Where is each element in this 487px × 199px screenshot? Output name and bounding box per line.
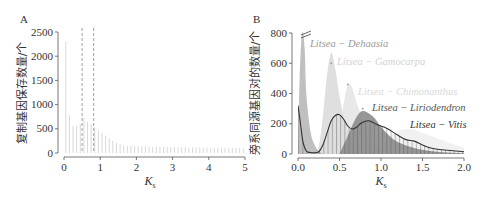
x-tick-label: 1 xyxy=(97,161,103,173)
panel-a-bars xyxy=(66,42,243,153)
annotation-liriodendron: Litsea − Liriodendron xyxy=(371,102,466,113)
annotation-dehaasia: Litsea − Dehaasia xyxy=(309,38,388,49)
x-tick-label: 0 xyxy=(61,161,67,173)
y-tick-label: 1500 xyxy=(31,74,54,86)
x-tick-label: 5 xyxy=(242,161,248,173)
panel-b: B 02004006008000.00.51.01.52.0 旁系同源基因对的数… xyxy=(248,13,471,190)
x-tick-label: 1.0 xyxy=(374,161,388,173)
y-tick-label: 200 xyxy=(271,117,288,129)
x-tick-label: 3 xyxy=(170,161,176,173)
y-tick-label: 500 xyxy=(37,122,54,134)
panel-b-x-axis-label: Ks xyxy=(374,174,386,190)
y-tick-label: 800 xyxy=(271,27,288,39)
x-tick-label: 2.0 xyxy=(457,161,471,173)
y-tick-label: 2000 xyxy=(31,50,54,62)
annotation-chimonanthus: Litsea − Chimonanthus xyxy=(357,86,457,97)
x-tick-label: 2 xyxy=(134,161,140,173)
panel-b-y-axis-label: 旁系同源基因对的数量/个 xyxy=(248,31,262,156)
annotation-gamocarpa: Litsea − Gamocarpa xyxy=(336,56,425,67)
panel-a-axes: 05001000150020002500012345 xyxy=(31,26,248,174)
peak-marker xyxy=(347,84,349,86)
y-tick-label: 400 xyxy=(271,87,288,99)
x-tick-label: 0.5 xyxy=(333,161,347,173)
peak-marker xyxy=(362,108,364,110)
panel-a-label: A xyxy=(20,13,28,25)
x-tick-label: 1.5 xyxy=(416,161,430,173)
figure: A 05001000150020002500012345 复制基因保存数量/个 … xyxy=(0,0,487,199)
y-tick-label: 2500 xyxy=(31,26,54,38)
y-tick-label: 600 xyxy=(271,57,288,69)
panel-a: A 05001000150020002500012345 复制基因保存数量/个 … xyxy=(15,13,248,190)
x-tick-label: 0.0 xyxy=(291,161,305,173)
y-tick-label: 1000 xyxy=(31,98,54,110)
panel-a-y-axis-label: 复制基因保存数量/个 xyxy=(15,42,29,145)
y-tick-label: 0 xyxy=(282,148,288,160)
annotation-vitis: Litsea − Vitis xyxy=(409,119,466,130)
panel-a-x-axis-label: Ks xyxy=(143,174,155,190)
x-tick-label: 4 xyxy=(206,161,212,173)
y-tick-label: 0 xyxy=(48,147,54,159)
panel-b-label: B xyxy=(253,13,260,25)
peak-marker xyxy=(330,62,332,64)
